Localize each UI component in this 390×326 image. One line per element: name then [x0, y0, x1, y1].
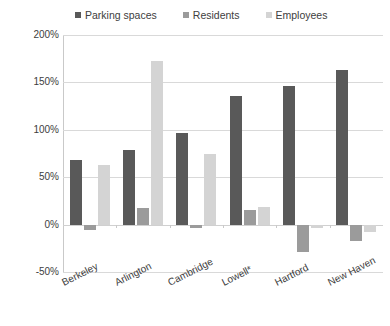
bar [98, 165, 110, 225]
x-axis-category-labels: BerkeleyArlingtonCambridgeLowell*Hartfor… [0, 272, 390, 326]
bar-group-arlington [123, 35, 163, 272]
y-tick-label-150: 150% [3, 77, 59, 87]
bar [230, 96, 242, 225]
legend-label-parking-spaces: Parking spaces [85, 10, 157, 21]
bar [244, 210, 256, 224]
bar [297, 225, 309, 252]
bar-group-new-haven [336, 35, 376, 272]
bar [364, 225, 376, 233]
legend-label-employees: Employees [276, 10, 328, 21]
bar-group-berkeley [70, 35, 110, 272]
bar [151, 61, 163, 225]
bars-layer [63, 35, 383, 272]
y-tick-label-100: 100% [3, 125, 59, 135]
category-tick [116, 225, 117, 228]
bar [123, 150, 135, 225]
bar [204, 154, 216, 225]
bar [176, 133, 188, 225]
bar-group-lowell [230, 35, 270, 272]
category-tick [170, 225, 171, 228]
chart-legend: Parking spaces Residents Employees [75, 6, 380, 24]
y-tick-label-200: 200% [3, 30, 59, 40]
y-tick-label-0: 0% [3, 220, 59, 230]
legend-item-residents: Residents [183, 10, 240, 21]
bar [70, 160, 82, 224]
bar [350, 225, 362, 241]
y-axis-title: Percentage change, 1960-2000 [12, 0, 26, 30]
category-tick [276, 225, 277, 228]
y-tick-label-50: 50% [3, 172, 59, 182]
legend-label-residents: Residents [193, 10, 240, 21]
bar [283, 86, 295, 224]
bar [137, 208, 149, 224]
bar-group-cambridge [176, 35, 216, 272]
bar-chart: Parking spaces Residents Employees Perce… [0, 0, 390, 326]
legend-item-parking-spaces: Parking spaces [75, 10, 157, 21]
legend-swatch-residents [183, 12, 189, 18]
category-tick [330, 225, 331, 228]
bar [258, 207, 270, 225]
category-tick [223, 225, 224, 228]
y-axis-ticks: 200%150%100%50%0%-50% [0, 35, 59, 273]
legend-swatch-employees [266, 12, 272, 18]
bar [311, 225, 323, 229]
bar [190, 225, 202, 229]
bar [336, 70, 348, 225]
bar-group-hartford [283, 35, 323, 272]
legend-swatch-parking-spaces [75, 12, 81, 18]
bar [84, 225, 96, 231]
legend-item-employees: Employees [266, 10, 328, 21]
